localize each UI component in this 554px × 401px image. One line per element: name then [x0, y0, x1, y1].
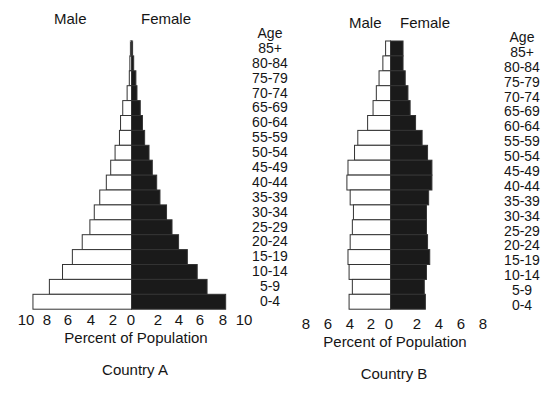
bar-male-70-74 [127, 86, 131, 101]
bar-male-25-29 [352, 220, 390, 235]
bar-male-60-64 [368, 116, 391, 131]
bar-female-30-34 [132, 205, 167, 220]
bar-female-75-79 [132, 71, 136, 86]
bar-female-20-24 [391, 235, 428, 250]
bar-female-35-39 [132, 190, 160, 205]
bar-male-10-14 [63, 265, 132, 280]
chart-title-b: Country B [361, 366, 428, 381]
bar-female-20-24 [132, 235, 179, 250]
bar-female-60-64 [391, 116, 416, 131]
bar-female-5-9 [391, 279, 425, 294]
bar-female-75-79 [391, 71, 406, 86]
bar-female-0-4 [132, 294, 226, 309]
bar-female-45-49 [391, 160, 432, 175]
tick: 6 [324, 316, 332, 331]
bar-female-10-14 [132, 265, 198, 280]
bar-male-75-79 [379, 71, 390, 86]
bar-male-35-39 [100, 190, 132, 205]
bar-male-80-84 [383, 56, 391, 71]
tick: 8 [302, 316, 310, 331]
bar-male-15-19 [72, 250, 131, 265]
bar-female-45-49 [132, 160, 153, 175]
bar-female-5-9 [132, 279, 208, 294]
tick: 0 [385, 316, 393, 331]
bar-male-65-69 [123, 101, 132, 116]
bar-male-40-44 [106, 175, 131, 190]
bar-male-50-54 [355, 145, 391, 160]
bar-male-0-4 [33, 294, 132, 309]
bar-female-65-69 [132, 101, 141, 116]
bar-female-30-34 [391, 205, 427, 220]
bar-male-60-64 [121, 116, 132, 131]
bar-female-55-59 [391, 130, 423, 145]
bar-male-70-74 [376, 86, 390, 101]
tick: 8 [479, 316, 487, 331]
x-axis-title-a: Percent of Population [64, 330, 207, 345]
bar-female-40-44 [391, 175, 432, 190]
bar-female-15-19 [391, 250, 430, 265]
bar-male-0-4 [349, 294, 390, 309]
bar-male-40-44 [347, 175, 391, 190]
bar-female-60-64 [132, 116, 143, 131]
bar-female-10-14 [391, 265, 427, 280]
bar-male-35-39 [350, 190, 390, 205]
bar-female-85+ [391, 41, 404, 56]
bar-male-85+ [386, 41, 391, 56]
x-axis-title-b: Percent of Population [323, 334, 466, 349]
bar-male-20-24 [82, 235, 131, 250]
bar-male-15-19 [348, 250, 391, 265]
tick: 2 [413, 316, 421, 331]
bar-female-15-19 [132, 250, 188, 265]
bar-female-40-44 [132, 175, 157, 190]
bar-female-70-74 [132, 86, 137, 101]
tick: 2 [367, 316, 375, 331]
bar-male-30-34 [353, 205, 390, 220]
bar-female-50-54 [391, 145, 428, 160]
tick: 4 [435, 316, 443, 331]
bar-male-25-29 [90, 220, 132, 235]
bar-female-25-29 [132, 220, 173, 235]
tick: 6 [457, 316, 465, 331]
tick: 4 [346, 316, 354, 331]
bar-female-35-39 [391, 190, 429, 205]
bar-male-30-34 [94, 205, 131, 220]
bar-female-70-74 [391, 86, 408, 101]
bar-male-10-14 [349, 265, 390, 280]
bar-male-20-24 [350, 235, 390, 250]
chart-title-a: Country A [102, 362, 168, 377]
bar-male-55-59 [358, 130, 391, 145]
bar-male-5-9 [49, 279, 131, 294]
bar-male-50-54 [115, 145, 131, 160]
bar-male-55-59 [119, 130, 131, 145]
bar-female-80-84 [391, 56, 404, 71]
bar-female-55-59 [132, 130, 145, 145]
bar-female-0-4 [391, 294, 426, 309]
bar-male-5-9 [352, 279, 390, 294]
bar-male-45-49 [348, 160, 391, 175]
bar-female-65-69 [391, 101, 411, 116]
bar-female-25-29 [391, 220, 427, 235]
bar-male-45-49 [111, 160, 132, 175]
bar-female-50-54 [132, 145, 150, 160]
bar-male-65-69 [373, 101, 390, 116]
